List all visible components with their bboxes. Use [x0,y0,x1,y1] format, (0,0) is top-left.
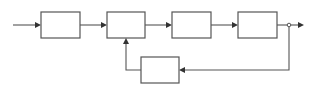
block-2 [107,12,145,38]
input-arrowhead-icon [35,22,41,28]
arrowhead-3-4-icon [232,22,238,28]
arrowhead-1-2-icon [101,22,107,28]
branch-point-icon [287,23,291,27]
feedback-line-to-block-2 [126,43,141,70]
feedback-arrowhead-icon [179,67,185,73]
arrowhead-2-3-icon [166,22,172,28]
output-arrowhead-icon [298,22,304,28]
block-diagram [0,0,311,97]
block-4 [238,12,277,38]
feedback-block [141,57,179,83]
feedback-to-block-2-arrowhead-icon [123,38,129,44]
block-3 [172,12,211,38]
block-1 [41,12,80,38]
